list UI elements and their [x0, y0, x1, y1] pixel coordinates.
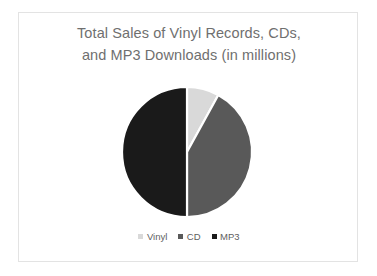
legend-swatch-cd	[178, 234, 183, 239]
legend-item-cd[interactable]: CD	[178, 231, 200, 242]
legend-label-mp3: MP3	[220, 231, 240, 242]
chart-legend: Vinyl CD MP3	[30, 231, 348, 242]
chart-title-line-1: Total Sales of Vinyl Records, CDs,	[30, 22, 348, 44]
legend-swatch-mp3	[212, 234, 217, 239]
legend-item-mp3[interactable]: MP3	[212, 231, 240, 242]
legend-label-vinyl: Vinyl	[147, 231, 167, 242]
legend-swatch-vinyl	[138, 234, 143, 239]
chart-title: Total Sales of Vinyl Records, CDs, and M…	[30, 22, 348, 66]
legend-item-vinyl[interactable]: Vinyl	[138, 231, 167, 242]
legend-label-cd: CD	[187, 231, 201, 242]
chart-title-line-2: and MP3 Downloads (in millions)	[30, 44, 348, 66]
slide-canvas: Total Sales of Vinyl Records, CDs, and M…	[0, 0, 377, 276]
